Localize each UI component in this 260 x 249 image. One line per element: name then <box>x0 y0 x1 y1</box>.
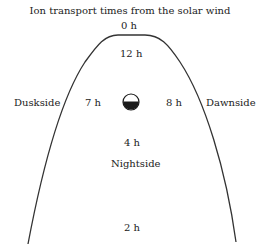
label-2h: 2 h <box>124 223 140 233</box>
label-7h: 7 h <box>85 98 101 108</box>
label-dawnside: Dawnside <box>206 98 256 108</box>
label-8h: 8 h <box>166 98 182 108</box>
label-duskside: Duskside <box>14 98 60 108</box>
label-4h: 4 h <box>124 138 140 148</box>
label-0h: 0 h <box>121 21 137 31</box>
label-nightside: Nightside <box>111 159 160 169</box>
magnetosphere-diagram <box>0 0 260 249</box>
earth-icon <box>123 94 139 110</box>
label-12h: 12 h <box>120 49 142 59</box>
